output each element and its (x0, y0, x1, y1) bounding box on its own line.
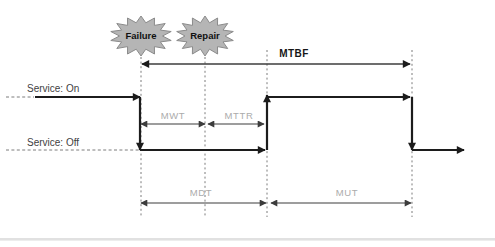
bottom-edge-band (0, 238, 495, 241)
mttr-label: MTTR (225, 110, 254, 121)
mwt-label: MWT (161, 110, 185, 121)
mtbf-label: MTBF (279, 48, 308, 59)
service-off-label: Service: Off (27, 137, 79, 148)
repair-label: Repair (190, 30, 220, 41)
mdt-label: MDT (190, 187, 212, 198)
reliability-timing-diagram: Failure Repair MTBF Service: On Service:… (0, 0, 495, 247)
service-on-label: Service: On (27, 83, 79, 94)
mut-label: MUT (336, 187, 358, 198)
failure-label: Failure (125, 30, 156, 41)
